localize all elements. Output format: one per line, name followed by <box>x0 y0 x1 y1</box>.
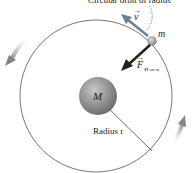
central-mass-label: M <box>92 90 103 102</box>
velocity-vector-mark: → <box>134 7 141 15</box>
rotation-arrow-right <box>172 122 183 145</box>
rotation-arrow-left <box>11 36 29 60</box>
orbiting-mass <box>148 37 157 46</box>
force-vector-mark: → <box>137 54 144 62</box>
orbit-diagram: Circular orbit of radius M v → m F → M o… <box>0 0 192 173</box>
caption-pointer <box>146 6 152 31</box>
rotation-arrowhead-right-icon <box>178 115 186 127</box>
top-caption: Circular orbit of radius <box>88 0 171 5</box>
velocity-arrow <box>128 20 148 36</box>
force-subscript: M on m <box>143 67 160 72</box>
radius-label: Radius r <box>93 126 123 136</box>
orbiting-mass-label: m <box>158 28 165 39</box>
